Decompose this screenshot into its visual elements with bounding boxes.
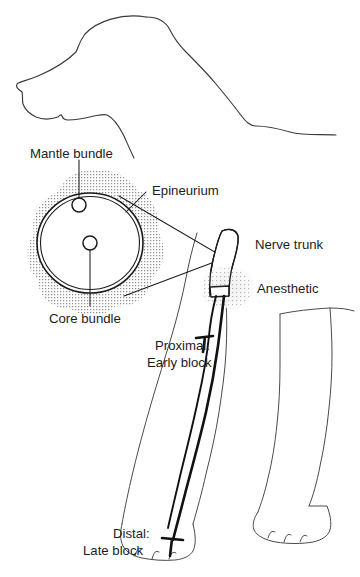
dog-far-paw: [253, 506, 331, 544]
nerve-block-figure: Mantle bundle Epineurium Core bundle Ner…: [0, 0, 360, 577]
dog-far-forelimb-shoulder: [280, 308, 354, 314]
dog-far-forelimb-back-edge: [309, 308, 332, 506]
label-distal-line2: Late block: [83, 543, 144, 558]
label-distal-line1: Distal:: [113, 526, 150, 541]
label-epineurium: Epineurium: [152, 183, 219, 198]
nerve-trunk-enlarged: [199, 229, 255, 311]
label-anesthetic: Anesthetic: [257, 281, 319, 296]
nerve-fibers: [162, 296, 224, 556]
figure-canvas: Mantle bundle Epineurium Core bundle Ner…: [0, 0, 360, 577]
label-proximal-line1: Proximal:: [155, 338, 210, 353]
label-mantle-bundle: Mantle bundle: [30, 146, 113, 161]
label-nerve-trunk: Nerve trunk: [255, 237, 324, 252]
dog-far-paw-toes: [268, 531, 307, 542]
dog-dorsal-line: [146, 17, 336, 135]
label-core-bundle: Core bundle: [49, 311, 121, 326]
mantle-fiber-path: [168, 296, 216, 528]
nerve-trunk-distal-segment: [210, 286, 229, 297]
core-bundle-marker: [83, 236, 97, 250]
mantle-bundle-marker: [72, 198, 86, 212]
dog-head-and-back-outline: [16, 16, 146, 158]
dog-far-forelimb-front-edge: [258, 314, 280, 512]
label-proximal-line2: Early block: [147, 355, 212, 370]
